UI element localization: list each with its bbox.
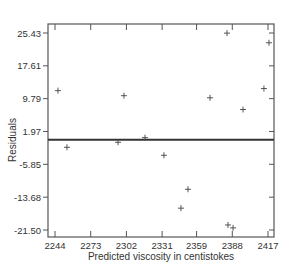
- plus-marker-icon: [224, 30, 230, 36]
- plus-marker-icon: [178, 205, 184, 211]
- x-tick-label: 2331: [152, 240, 173, 251]
- plus-marker-icon: [207, 95, 213, 101]
- plus-marker-icon: [266, 40, 272, 46]
- plus-marker-icon: [121, 93, 127, 99]
- y-tick-label: -13.68: [14, 192, 41, 203]
- y-tick-label: -21.50: [14, 225, 41, 236]
- plus-marker-icon: [161, 152, 167, 158]
- plus-marker-icon: [55, 88, 61, 94]
- plot-frame: [48, 24, 274, 237]
- plus-marker-icon: [185, 186, 191, 192]
- y-tick-label: 25.43: [17, 28, 41, 39]
- y-tick-label: -5.85: [19, 159, 41, 170]
- y-tick-label: 17.61: [17, 60, 41, 71]
- plus-marker-icon: [261, 86, 267, 92]
- x-axis-ticks: 2244227323022331235923882417: [44, 24, 278, 251]
- x-tick-label: 2359: [186, 240, 207, 251]
- y-axis-ticks: 25.4317.619.791.97-5.85-13.68-21.50: [14, 28, 274, 236]
- x-tick-label: 2244: [44, 240, 65, 251]
- x-tick-label: 2388: [222, 240, 243, 251]
- x-tick-label: 2417: [257, 240, 278, 251]
- y-axis-title: Residuals: [7, 118, 18, 162]
- y-tick-label: 9.79: [23, 93, 42, 104]
- plus-marker-icon: [240, 107, 246, 113]
- x-tick-label: 2302: [116, 240, 137, 251]
- plus-marker-icon: [225, 222, 231, 228]
- x-tick-label: 2273: [80, 240, 101, 251]
- y-tick-label: 1.97: [23, 126, 42, 137]
- x-axis-title: Predicted viscosity in centistokes: [88, 251, 234, 262]
- residual-scatter-chart: 25.4317.619.791.97-5.85-13.68-21.50 2244…: [0, 0, 290, 270]
- data-points: [55, 30, 272, 231]
- plus-marker-icon: [64, 144, 70, 150]
- plus-marker-icon: [230, 225, 236, 231]
